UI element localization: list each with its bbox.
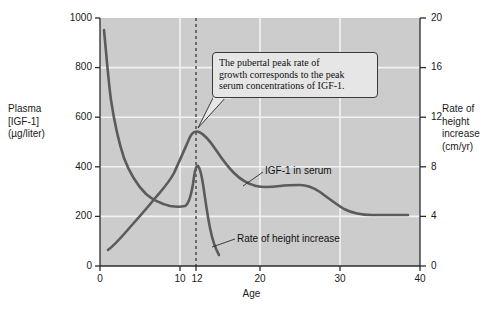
right-tick-16: 16 (431, 61, 442, 72)
left-axis-title: Plasma [IGF-1] (µg/liter) (8, 103, 70, 141)
left-axis-title-line1: Plasma (8, 103, 70, 116)
left-tick-200: 200 (62, 210, 92, 221)
x-tick-30: 30 (330, 273, 350, 284)
annotation-line-3: serum concentrations of IGF-1. (219, 80, 371, 92)
x-axis (100, 266, 420, 271)
annotation-line-2: growth corresponds to the peak (219, 69, 371, 81)
rate-series-label: Rate of height increase (237, 233, 340, 244)
right-tick-8: 8 (431, 161, 437, 172)
left-tick-1000: 1000 (62, 12, 92, 23)
left-tick-600: 600 (62, 111, 92, 122)
x-tick-0: 0 (90, 273, 110, 284)
left-tick-800: 800 (62, 61, 92, 72)
right-tick-0: 0 (431, 260, 437, 271)
left-tick-400: 400 (62, 161, 92, 172)
right-tick-12: 12 (431, 111, 442, 122)
x-axis-title: Age (0, 288, 503, 299)
right-tick-20: 20 (431, 12, 442, 23)
left-axis-title-line2: [IGF-1] (8, 116, 70, 129)
x-tick-20: 20 (250, 273, 270, 284)
left-axis-title-line3: (µg/liter) (8, 128, 70, 141)
annotation-line-1: The pubertal peak rate of (219, 57, 371, 69)
x-tick-12: 12 (187, 273, 207, 284)
right-axis-title-line4: (cm/yr) (442, 141, 502, 154)
left-axis (95, 18, 100, 266)
right-axis-title-line2: height (442, 116, 502, 129)
right-axis (420, 18, 426, 266)
annotation-callout: The pubertal peak rate of growth corresp… (212, 52, 378, 98)
x-tick-40: 40 (410, 273, 430, 284)
right-axis-title: Rate of height increase (cm/yr) (442, 103, 502, 153)
right-axis-title-line3: increase (442, 128, 502, 141)
left-tick-0: 0 (62, 260, 92, 271)
igf1-series-label: IGF-1 in serum (265, 165, 332, 176)
right-axis-title-line1: Rate of (442, 103, 502, 116)
right-tick-4: 4 (431, 210, 437, 221)
